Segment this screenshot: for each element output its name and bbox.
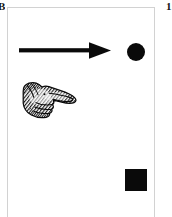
panel-label-top-left: B — [0, 1, 5, 12]
filled-square-mark — [125, 169, 147, 191]
filled-circle-mark — [127, 43, 145, 61]
pointing-hand-icon — [20, 77, 78, 123]
right-arrow-icon — [19, 41, 113, 61]
figure-plate — [7, 7, 155, 217]
figure-panel: B 1 — [0, 0, 172, 217]
panel-label-top-right: 1 — [166, 1, 172, 12]
